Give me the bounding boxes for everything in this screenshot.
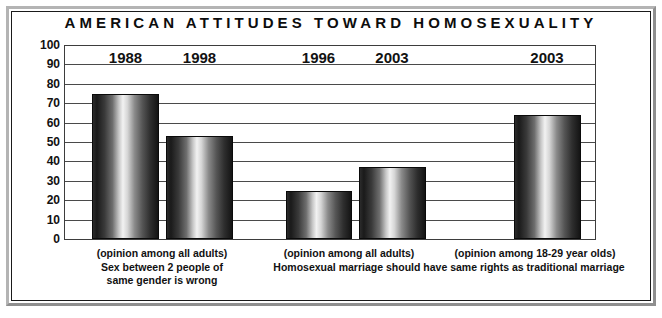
bars-layer — [65, 46, 595, 239]
y-tick-80: 80 — [20, 78, 60, 90]
caption-group-3-audience: (opinion among 18-29 year olds) — [440, 247, 630, 261]
y-tick-60: 60 — [20, 117, 60, 129]
year-label-bar2: 1998 — [165, 49, 234, 66]
y-axis: 100 90 80 70 60 50 40 30 20 10 0 — [20, 45, 60, 240]
y-tick-70: 70 — [20, 97, 60, 109]
caption-group-2-audience: (opinion among all adults) — [264, 247, 434, 261]
bar-2003-young-adults-marriage[interactable] — [514, 115, 581, 239]
bar-1998-all-adults-sex-wrong[interactable] — [166, 136, 233, 239]
y-tick-30: 30 — [20, 175, 60, 187]
year-label-bar3: 1996 — [285, 49, 352, 66]
y-tick-0: 0 — [20, 233, 60, 245]
plot-area — [64, 45, 596, 240]
bar-1988-all-adults-sex-wrong[interactable] — [92, 94, 159, 240]
year-label-bar1: 1988 — [91, 49, 160, 66]
caption-group-1-line1: Sex between 2 people of — [32, 261, 292, 275]
y-tick-20: 20 — [20, 194, 60, 206]
caption-group-2: (opinion among all adults) — [264, 247, 434, 261]
caption-marriage-statement: Homosexual marriage should have same rig… — [256, 261, 642, 275]
y-tick-40: 40 — [20, 155, 60, 167]
year-label-bar5: 2003 — [513, 49, 581, 66]
y-tick-50: 50 — [20, 136, 60, 148]
chart-screenshot: AMERICAN ATTITUDES TOWARD HOMOSEXUALITY … — [0, 0, 662, 318]
bar-2003-all-adults-marriage[interactable] — [359, 167, 426, 239]
chart-title: AMERICAN ATTITUDES TOWARD HOMOSEXUALITY — [11, 14, 651, 31]
caption-group-1-audience: (opinion among all adults) — [32, 247, 292, 261]
bar-1996-all-adults-marriage[interactable] — [286, 191, 352, 240]
caption-group-1-line2: same gender is wrong — [32, 274, 292, 288]
y-tick-100: 100 — [20, 39, 60, 51]
y-tick-90: 90 — [20, 58, 60, 70]
caption-group-1: (opinion among all adults) Sex between 2… — [32, 247, 292, 288]
caption-group-3: (opinion among 18-29 year olds) — [440, 247, 630, 261]
year-label-bar4: 2003 — [358, 49, 426, 66]
y-tick-10: 10 — [20, 214, 60, 226]
